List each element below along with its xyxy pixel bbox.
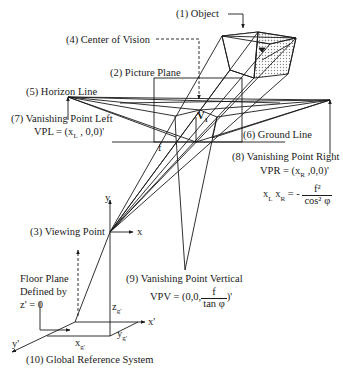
label-floor-plane-2: Defined by — [20, 287, 67, 298]
label-object: (1) Object — [176, 9, 219, 20]
label-floor-plane-3: z' = 0 — [20, 300, 43, 311]
label-picture-plane: (2) Picture Plane — [110, 68, 181, 79]
label-axis-y: y — [105, 193, 110, 204]
viewing-to-origin — [75, 232, 110, 322]
label-vpl-title: (7) Vanishing Point Left — [11, 114, 113, 125]
label-xg: xg' — [75, 338, 85, 351]
label-viewing-point: (3) Viewing Point — [30, 227, 105, 238]
label-axis-y-prime: y' — [12, 339, 19, 350]
label-horizon-line: (5) Horizon Line — [26, 87, 97, 98]
object-pointer — [228, 14, 243, 28]
label-axis-x: x — [137, 227, 142, 238]
label-axis-x-prime: x' — [148, 317, 155, 328]
label-f: f — [158, 143, 162, 154]
label-v1: V1 — [197, 111, 208, 124]
label-vpr-equation: VPR = (xR ,0,0)' — [260, 166, 329, 179]
label-vpl-equation: VPL = (xL , 0,0)' — [34, 127, 104, 140]
label-center-of-vision: (4) Center of Vision — [66, 35, 150, 46]
label-vpv-equation: VPV = (0,0,ftan φ)' — [150, 287, 232, 309]
label-ground-line: (6) Ground Line — [243, 130, 312, 141]
label-vpr-title: (8) Vanishing Point Right — [232, 152, 339, 163]
label-yg: yg' — [117, 329, 127, 342]
label-global-reference-system: (10) Global Reference System — [26, 355, 153, 366]
label-vpv-title: (9) Vanishing Point Vertical — [126, 274, 243, 285]
floor-plane-pointer — [40, 302, 70, 330]
label-relation: xL xR = - f²cos² φ — [263, 184, 332, 206]
object-box — [222, 32, 296, 78]
axis-y-prime — [12, 322, 75, 352]
label-zg: zg' — [112, 302, 121, 315]
label-floor-plane-1: Floor Plane — [20, 274, 69, 285]
